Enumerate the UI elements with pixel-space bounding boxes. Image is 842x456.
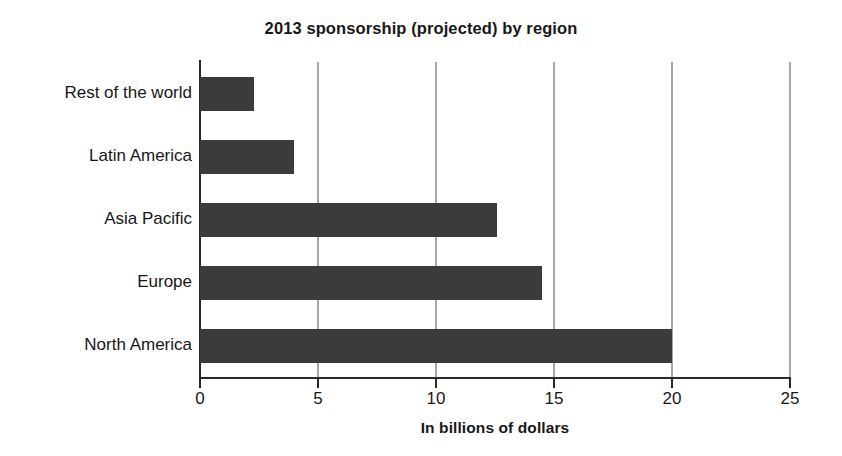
category-label: Europe [2, 272, 192, 292]
bar-row [200, 188, 790, 251]
x-tick-label: 5 [288, 389, 348, 409]
bar [200, 77, 254, 111]
x-tick-label: 15 [524, 389, 584, 409]
bar [200, 266, 542, 300]
bar-row [200, 252, 790, 315]
x-tick-mark [317, 379, 319, 388]
x-tick-label: 25 [760, 389, 820, 409]
x-tick-mark [199, 379, 201, 388]
category-label: Rest of the world [2, 83, 192, 103]
x-axis-line [199, 377, 791, 379]
x-tick-mark [553, 379, 555, 388]
x-axis-title: In billions of dollars [200, 419, 790, 437]
category-axis-labels: Rest of the worldLatin AmericaAsia Pacif… [0, 62, 192, 378]
bar [200, 203, 497, 237]
category-label: Latin America [2, 146, 192, 166]
plot-area [200, 62, 790, 378]
bar [200, 140, 294, 174]
bar-row [200, 315, 790, 378]
bar [200, 329, 672, 363]
x-tick-label: 20 [642, 389, 702, 409]
chart-title: 2013 sponsorship (projected) by region [0, 19, 842, 38]
bar-chart: 2013 sponsorship (projected) by region R… [0, 0, 842, 456]
x-tick-label: 10 [406, 389, 466, 409]
category-label: North America [2, 335, 192, 355]
x-tick-mark [671, 379, 673, 388]
category-label: Asia Pacific [2, 209, 192, 229]
x-tick-mark [789, 379, 791, 388]
bar-row [200, 62, 790, 125]
x-tick-label: 0 [170, 389, 230, 409]
bar-row [200, 125, 790, 188]
x-tick-mark [435, 379, 437, 388]
